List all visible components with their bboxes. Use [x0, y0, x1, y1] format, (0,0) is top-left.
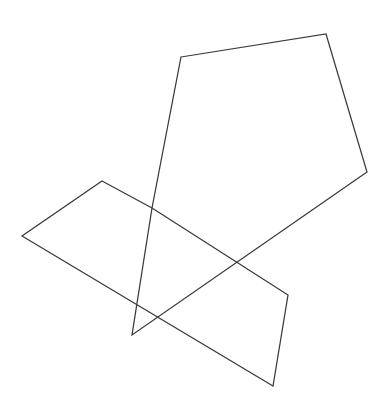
line-drawing-figure [0, 0, 387, 417]
drawing-canvas [0, 0, 387, 417]
canvas-background [0, 0, 387, 417]
